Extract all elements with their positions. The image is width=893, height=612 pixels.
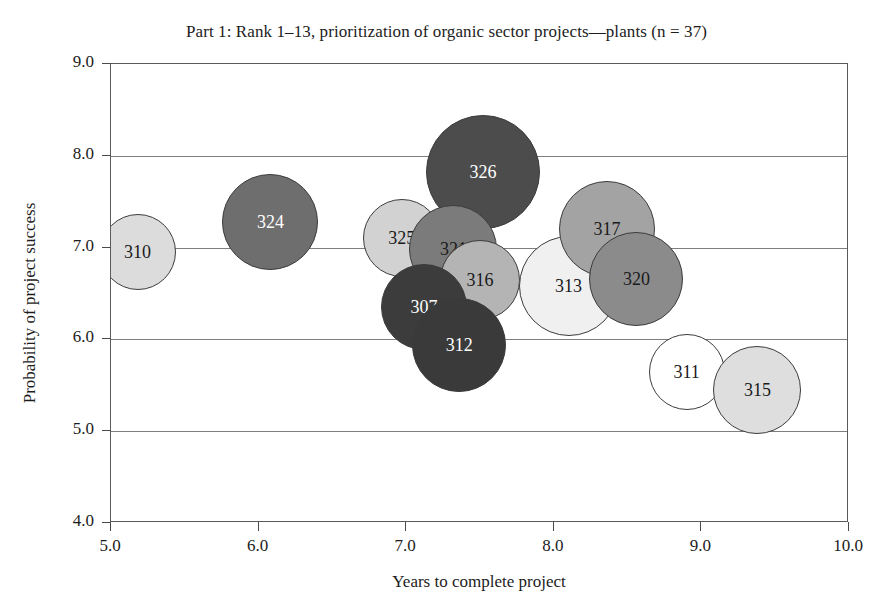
x-tick-6.0 [258, 522, 259, 531]
y-tick-7.0 [102, 247, 111, 248]
x-tick-label-7.0: 7.0 [370, 536, 440, 556]
bubble-layer: 310324325326321316307312313317320311315 [111, 64, 847, 521]
y-tick-label-6.0: 6.0 [50, 327, 94, 347]
x-tick-label-8.0: 8.0 [518, 536, 588, 556]
y-axis-line [110, 63, 111, 522]
x-tick-9.0 [700, 522, 701, 531]
x-tick-7.0 [405, 522, 406, 531]
bubble-label: 310 [124, 243, 151, 261]
x-tick-10.0 [848, 522, 849, 531]
bubble-label: 320 [623, 270, 650, 288]
y-tick-label-7.0: 7.0 [50, 236, 94, 256]
bubble-label: 326 [469, 163, 496, 181]
bubble-label: 312 [446, 336, 473, 354]
bubble-label: 315 [744, 381, 771, 399]
x-axis-title: Years to complete project [110, 572, 848, 592]
y-tick-label-8.0: 8.0 [50, 144, 94, 164]
y-tick-label-9.0: 9.0 [50, 52, 94, 72]
bubble-label: 311 [673, 363, 699, 381]
y-tick-8.0 [102, 155, 111, 156]
bubble-label: 316 [467, 271, 494, 289]
plot-area: 310324325326321316307312313317320311315 [110, 63, 848, 522]
y-axis-title: Probability of project success [20, 113, 40, 493]
bubble-label: 313 [555, 277, 582, 295]
bubble-chart-figure: Part 1: Rank 1–13, prioritization of org… [0, 0, 893, 612]
chart-title: Part 1: Rank 1–13, prioritization of org… [0, 22, 893, 42]
bubble-312[interactable]: 312 [412, 298, 506, 392]
bubble-324[interactable]: 324 [222, 174, 318, 270]
y-tick-9.0 [102, 63, 111, 64]
x-tick-label-5.0: 5.0 [75, 536, 145, 556]
bubble-label: 324 [257, 213, 284, 231]
y-tick-label-4.0: 4.0 [50, 511, 94, 531]
y-tick-6.0 [102, 338, 111, 339]
y-tick-5.0 [102, 430, 111, 431]
x-tick-8.0 [553, 522, 554, 531]
x-tick-label-9.0: 9.0 [665, 536, 735, 556]
x-tick-label-10.0: 10.0 [813, 536, 883, 556]
y-tick-label-5.0: 5.0 [50, 419, 94, 439]
x-tick-5.0 [110, 522, 111, 531]
bubble-320[interactable]: 320 [589, 232, 683, 326]
bubble-315[interactable]: 315 [713, 346, 801, 434]
bubble-310[interactable]: 310 [111, 214, 176, 290]
x-tick-label-6.0: 6.0 [223, 536, 293, 556]
